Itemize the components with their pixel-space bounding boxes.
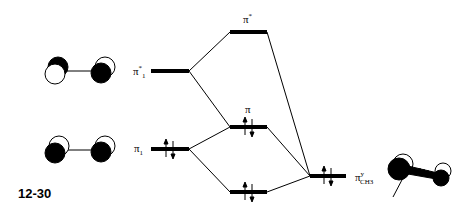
label-sub: 1 [140,149,144,157]
label-text: π [245,103,251,115]
level-pi1-star [151,69,189,73]
level-pi-ch3 [310,174,346,178]
label-pi1: π1 [134,143,143,157]
pi1-star-orbital-icon [45,57,115,84]
electron-pairs [164,117,333,202]
label-pi-ch3: πyCH3 [355,171,373,186]
pi-ch3-orbital-icon [388,154,451,197]
label-sup: * [139,64,143,72]
level-pi1 [151,147,189,151]
pi1-orbital-icon [45,136,115,163]
figure-label: 12-30 [18,186,51,201]
label-sup: y [361,170,365,178]
label-pi-star: π* [243,13,252,25]
label-sup: * [249,12,253,20]
label-pi: π [245,104,251,115]
mo-diagram [0,0,464,215]
level-low [230,190,267,194]
level-pi [230,125,267,129]
level-pi-star [230,30,267,34]
label-sub: 1 [142,72,146,80]
label-pi1-star: π*1 [133,65,146,80]
label-sub: CH3 [360,178,373,186]
